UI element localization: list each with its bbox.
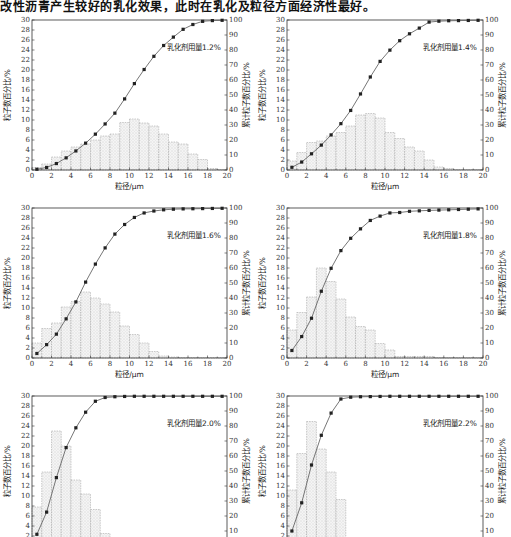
histogram-bar — [169, 142, 179, 170]
y2-tick-label: 100 — [485, 392, 498, 400]
x-tick-label: 12 — [145, 360, 154, 368]
cumulative-point — [143, 395, 146, 398]
histogram-bar — [326, 136, 336, 170]
cumulative-point — [172, 36, 175, 39]
cumulative-point — [45, 511, 48, 514]
y-tick-label: 8 — [281, 126, 285, 134]
cumulative-point — [94, 400, 97, 403]
cumulative-point — [221, 207, 224, 210]
cumulative-point — [152, 209, 155, 212]
y-axis-label: 粒子数百分比/% — [2, 69, 12, 121]
cumulative-point — [191, 23, 194, 26]
cumulative-point — [55, 333, 58, 336]
histogram-bar — [110, 134, 120, 170]
y-tick-label: 16 — [276, 462, 285, 470]
y-tick-label: 6 — [281, 512, 286, 520]
y-tick-label: 6 — [26, 512, 31, 520]
histogram-bar — [149, 352, 159, 359]
cumulative-point — [104, 122, 107, 125]
y-tick-label: 4 — [26, 522, 31, 530]
y2-tick-label: 10 — [229, 339, 238, 347]
cumulative-point — [437, 395, 440, 398]
histogram-bar — [42, 472, 52, 537]
cumulative-point — [467, 208, 470, 211]
histogram-bar — [130, 335, 140, 359]
y-tick-label: 4 — [281, 522, 286, 530]
cumulative-point — [133, 82, 136, 85]
x-tick-label: 12 — [145, 172, 154, 180]
histogram-bar — [365, 114, 375, 171]
cumulative-point — [359, 227, 362, 230]
x-tick-label: 18 — [459, 172, 468, 180]
y-tick-label: 22 — [21, 56, 30, 64]
x-tick-label: 14 — [164, 172, 173, 180]
y2-tick-label: 90 — [229, 407, 238, 415]
y-tick-label: 18 — [21, 452, 30, 460]
cumulative-point — [55, 162, 58, 165]
plot-group: 2468101214161820222426283010203040506070… — [2, 392, 251, 537]
cumulative-point — [418, 27, 421, 30]
y-tick-label: 30 — [21, 392, 30, 400]
y-axis-label: 粒子数百分比/% — [2, 257, 12, 309]
y-tick-label: 12 — [276, 294, 285, 302]
cumulative-point — [467, 395, 470, 398]
histogram-bar — [356, 327, 366, 359]
cumulative-point — [65, 317, 68, 320]
y2-tick-label: 100 — [229, 16, 242, 24]
cumulative-point — [467, 19, 470, 22]
histogram-bar — [198, 160, 208, 171]
cumulative-point — [74, 300, 77, 303]
y2-tick-label: 20 — [485, 512, 494, 520]
y-tick-label: 8 — [26, 314, 30, 322]
y2-tick-label: 20 — [229, 324, 238, 332]
cumulative-point — [339, 122, 342, 125]
histogram-bar — [139, 343, 149, 358]
y2-tick-label: 40 — [485, 482, 494, 490]
y2-axis-label: 累计粒子数百分比/% — [241, 250, 251, 316]
cumulative-point — [221, 19, 224, 22]
y2-tick-label: 90 — [229, 31, 238, 39]
x-tick-label: 8 — [363, 172, 367, 180]
x-tick-label: 20 — [479, 360, 488, 368]
x-tick-label: 4 — [69, 360, 74, 368]
cumulative-point — [330, 133, 333, 136]
histogram-bar — [326, 472, 336, 537]
x-tick-label: 14 — [420, 172, 429, 180]
y-tick-label: 20 — [276, 442, 285, 450]
cumulative-point — [428, 209, 431, 212]
y-tick-label: 20 — [276, 66, 285, 74]
y-tick-label: 22 — [21, 244, 30, 252]
y-axis-label: 粒子数百分比/% — [2, 445, 12, 497]
y-tick-label: 8 — [281, 314, 285, 322]
cumulative-point — [398, 211, 401, 214]
cumulative-point — [388, 395, 391, 398]
y2-tick-label: 10 — [485, 339, 494, 347]
histogram-bar — [395, 139, 405, 171]
histogram-bar — [346, 317, 356, 358]
y-tick-label: 28 — [21, 214, 30, 222]
y-tick-label: 26 — [21, 412, 30, 420]
cumulative-point — [113, 233, 116, 236]
y2-tick-label: 40 — [229, 294, 238, 302]
x-tick-label: 10 — [125, 360, 134, 368]
histogram-bar — [100, 304, 110, 358]
y-tick-label: 10 — [21, 116, 30, 124]
y2-tick-label: 100 — [485, 16, 498, 24]
y-tick-label: 10 — [21, 304, 30, 312]
y2-tick-label: 30 — [485, 309, 494, 317]
cumulative-point — [123, 395, 126, 398]
y2-tick-label: 20 — [229, 136, 238, 144]
cumulative-point — [191, 395, 194, 398]
histogram-bar — [326, 282, 336, 359]
histogram-bar — [32, 507, 42, 537]
histogram-bar — [130, 119, 140, 170]
y-tick-label: 4 — [281, 146, 286, 154]
y-tick-label: 18 — [21, 76, 30, 84]
histogram-bar — [71, 302, 81, 359]
plot-group: 0246810121416182022242628300102030405060… — [2, 204, 251, 379]
cumulative-point — [221, 395, 224, 398]
y2-tick-label: 10 — [229, 151, 238, 159]
x-tick-label: 20 — [223, 172, 232, 180]
y-tick-label: 12 — [21, 106, 30, 114]
cumulative-point — [162, 208, 165, 211]
